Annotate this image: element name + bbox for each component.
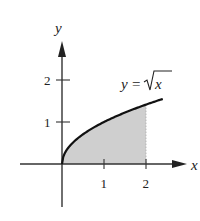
y-axis-label: y — [53, 20, 62, 36]
function-label: y = x — [119, 71, 172, 92]
x-tick-label: 2 — [143, 176, 150, 191]
svg-text:y: y — [119, 76, 128, 92]
y-tick-label: 2 — [44, 73, 51, 88]
y-tick-label: 1 — [44, 115, 51, 130]
shaded-region — [62, 105, 146, 164]
graph: 12 12 x y y = x — [0, 0, 200, 221]
x-tick-label: 1 — [101, 176, 108, 191]
svg-text:x: x — [154, 76, 162, 92]
y-axis-arrow-icon — [58, 41, 66, 57]
x-axis-label: x — [190, 157, 198, 173]
x-axis-arrow-icon — [172, 160, 187, 168]
y-ticks: 12 — [44, 73, 70, 130]
svg-text:=: = — [132, 76, 140, 92]
